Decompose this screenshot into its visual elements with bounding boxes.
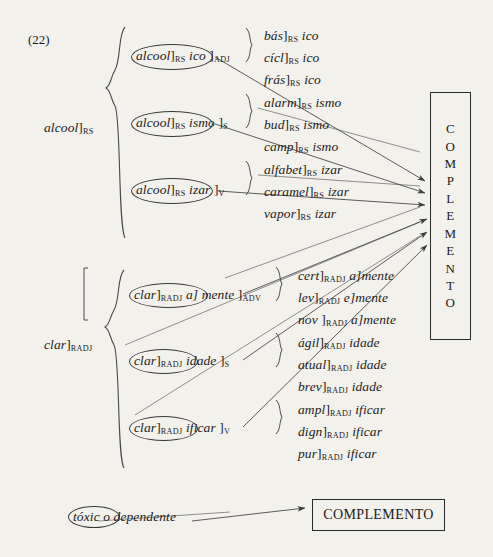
lower-group-braces bbox=[276, 267, 282, 434]
upper-pattern-ico: alcool]RS ico ]ADJ bbox=[136, 49, 230, 64]
complemento-letter: O bbox=[446, 138, 456, 155]
example-item: caramel]RS izar bbox=[264, 185, 349, 200]
pattern-sub-2: S bbox=[225, 360, 230, 369]
upper-base-subscript: RS bbox=[83, 127, 94, 136]
example-suffix: idade bbox=[349, 335, 380, 350]
example-subscript: RADJ bbox=[327, 386, 349, 395]
pattern-sub-2: V bbox=[224, 427, 230, 436]
example-suffix: ico bbox=[304, 72, 321, 87]
example-stem: ágil bbox=[298, 335, 319, 350]
lower-base-label: clar]RADJ bbox=[44, 338, 92, 353]
example-subscript: RS bbox=[289, 124, 300, 133]
lower-left-brace bbox=[105, 270, 124, 468]
complemento-letter: O bbox=[446, 294, 456, 311]
example-item: brev]RADJ idade bbox=[298, 380, 382, 395]
pattern-sub-1: RADJ bbox=[161, 294, 183, 303]
complemento-letter: M bbox=[444, 225, 456, 242]
example-stem: bud bbox=[264, 117, 285, 132]
example-item: cícl]RS ico bbox=[264, 51, 319, 66]
pattern-sub-1: RADJ bbox=[161, 427, 183, 436]
example-item: ágil]RADJ idade bbox=[298, 336, 380, 351]
example-stem: caramel bbox=[264, 184, 309, 199]
example-subscript: RS bbox=[288, 35, 299, 44]
pattern-suffix: mente bbox=[202, 287, 235, 302]
pattern-stem: alcool bbox=[136, 115, 170, 130]
example-stem: nov bbox=[298, 312, 321, 327]
example-subscript: RS bbox=[301, 213, 312, 222]
example-suffix: ismo bbox=[315, 95, 341, 110]
bottom-row-text: tóxic o dependente bbox=[73, 510, 176, 524]
example-subscript: RADJ bbox=[324, 275, 346, 284]
example-stem: brev bbox=[298, 379, 322, 394]
complemento-letter: E bbox=[446, 242, 454, 259]
complemento-box-bottom: COMPLEMENTO bbox=[312, 499, 445, 531]
pattern-stem: alcool bbox=[136, 48, 170, 63]
example-subscript: RS bbox=[307, 169, 318, 178]
example-subscript: RADJ bbox=[327, 431, 349, 440]
upper-left-brace bbox=[106, 27, 125, 238]
example-suffix: izar bbox=[328, 184, 349, 199]
pattern-suffix: ismo bbox=[189, 115, 215, 130]
pattern-sub-2: ADV bbox=[242, 294, 261, 303]
example-suffix: ificar bbox=[347, 446, 377, 461]
pattern-stem: clar bbox=[134, 353, 156, 368]
example-item: bás]RS ico bbox=[264, 29, 319, 44]
example-subscript: RS bbox=[301, 102, 312, 111]
example-suffix: ismo bbox=[303, 117, 329, 132]
example-stem: pur bbox=[298, 446, 317, 461]
pattern-sub-2: S bbox=[223, 122, 228, 131]
lower-base-stem: clar bbox=[44, 337, 66, 352]
example-item: bud]RS ismo bbox=[264, 118, 329, 133]
example-subscript: RADJ bbox=[331, 364, 353, 373]
complemento-letter: M bbox=[444, 155, 456, 172]
lower-pattern-amente: clar]RADJ a] mente ]ADV bbox=[134, 288, 261, 303]
upper-base-label: alcool]RS bbox=[44, 121, 94, 136]
complemento-letter: L bbox=[446, 190, 454, 207]
example-subscript: RS bbox=[298, 146, 309, 155]
complemento-letter: P bbox=[447, 172, 455, 189]
example-subscript: RADJ bbox=[324, 342, 346, 351]
example-subscript: RADJ bbox=[322, 453, 344, 462]
example-subscript: RADJ bbox=[326, 319, 348, 328]
upper-pattern-izar: alcool]RS izar ]V bbox=[136, 183, 225, 198]
example-suffix: izar bbox=[321, 162, 342, 177]
pattern-stem: clar bbox=[134, 287, 156, 302]
example-item: nov ]RADJ a]mente bbox=[298, 313, 396, 328]
lower-pattern-idade: clar]RADJ idade ]S bbox=[134, 354, 229, 369]
pattern-sub-1: RADJ bbox=[161, 360, 183, 369]
example-stem: lev bbox=[298, 290, 314, 305]
example-suffix: ico bbox=[303, 50, 320, 65]
example-stem: cícl bbox=[264, 50, 284, 65]
example-number: (22) bbox=[28, 32, 50, 48]
example-stem: cert bbox=[298, 268, 319, 283]
complemento-letter: C bbox=[446, 120, 455, 137]
example-suffix: e]mente bbox=[344, 290, 388, 305]
pattern-sub-1: RS bbox=[175, 55, 186, 64]
example-suffix: ificar bbox=[352, 424, 382, 439]
example-subscript: RADJ bbox=[330, 409, 352, 418]
example-item: dign]RADJ ificar bbox=[298, 425, 382, 440]
pattern-suffix: izar bbox=[189, 182, 210, 197]
upper-group-braces bbox=[246, 28, 252, 195]
pattern-infix: a] bbox=[186, 287, 198, 302]
complemento-letter: T bbox=[446, 277, 454, 294]
diagram-page: (22) alcool]RS alcool]RS ico ]ADJ alcool… bbox=[0, 0, 493, 557]
example-item: vapor]RS izar bbox=[264, 207, 336, 222]
pattern-sub-2: V bbox=[219, 189, 225, 198]
example-suffix: a]mente bbox=[349, 268, 394, 283]
example-item: cert]RADJ a]mente bbox=[298, 269, 394, 284]
pattern-stem: alcool bbox=[136, 182, 170, 197]
pattern-sub-1: RS bbox=[175, 189, 186, 198]
example-suffix: ico bbox=[302, 28, 319, 43]
example-subscript: RS bbox=[314, 191, 325, 200]
complemento-letter: E bbox=[446, 207, 454, 224]
upper-pattern-ismo: alcool]RS ismo ]S bbox=[136, 116, 228, 131]
example-item: pur]RADJ ificar bbox=[298, 447, 377, 462]
example-item: atual]RADJ idade bbox=[298, 358, 387, 373]
example-item: ampl]RADJ ificar bbox=[298, 403, 385, 418]
pattern-stem: clar bbox=[134, 420, 156, 435]
bottom-rest-text: o dependente bbox=[103, 509, 176, 524]
example-item: camp]RS ismo bbox=[264, 140, 338, 155]
example-subscript: RADJ bbox=[319, 297, 341, 306]
example-stem: dign bbox=[298, 424, 322, 439]
